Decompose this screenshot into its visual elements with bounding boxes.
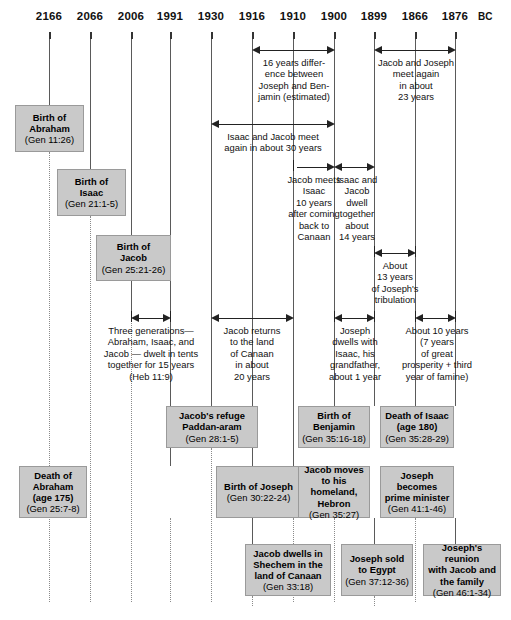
arrow-cap-right: [415, 246, 416, 257]
event-ref: (Gen 41:1-46): [388, 503, 446, 514]
timeline-line-1900-dotted: [334, 518, 335, 602]
event-title: Birth of Benjamin: [313, 410, 355, 432]
event-ref: (Gen 33:18): [263, 581, 313, 592]
event-ref: (Gen 30:22-24): [227, 492, 291, 503]
arrow-joseph-with-isaac: [334, 314, 375, 323]
arrowhead-right: [367, 163, 375, 171]
event-title: Birth of Abraham: [29, 112, 70, 134]
event-box-birth-abraham[interactable]: Birth of Abraham (Gen 11:26): [15, 105, 84, 152]
timeline-line-2066-solid: [90, 39, 91, 169]
arrow-ten-years: [415, 314, 456, 323]
era-label-bc: BC: [478, 11, 492, 22]
arrow-joseph-tribulation: [374, 249, 416, 258]
event-ref: (Gen 37:12-36): [345, 576, 409, 587]
timeline-line-1991-dotted: [170, 518, 171, 602]
arrowhead-right: [327, 46, 335, 54]
year-label-1899: 1899: [361, 10, 387, 22]
event-box-birth-joseph[interactable]: Birth of Joseph (Gen 30:22-24): [216, 466, 301, 518]
arrow-bar: [215, 124, 331, 125]
event-box-joseph-sold[interactable]: Joseph sold to Egypt (Gen 37:12-36): [341, 544, 413, 596]
event-box-birth-jacob[interactable]: Birth of Jacob (Gen 25:21-26): [96, 235, 171, 281]
year-label-1866: 1866: [402, 10, 428, 22]
event-title: Death of Isaac (age 180): [385, 410, 449, 432]
event-box-jacobs-refuge[interactable]: Jacob's refuge Paddan-aram (Gen 28:1-5): [166, 406, 258, 448]
event-ref: (Gen 28:1-5): [185, 433, 238, 444]
note-joseph-tribulation: About 13 years of Joseph's tribulation: [365, 260, 425, 306]
event-title: Jacob moves to his homeland, Hebron: [304, 464, 363, 509]
event-box-josephs-reunion[interactable]: Joseph's reunion with Jacob and the fami…: [423, 544, 501, 596]
timeline-line-1910-mid: [293, 318, 294, 466]
arrow-jacob-meets-isaac: [293, 163, 335, 172]
timeline-line-1899-dotted: [374, 596, 375, 606]
arrow-joseph-benjamin-gap: [252, 46, 335, 55]
tick-1930: [211, 32, 213, 39]
arrow-isaac-jacob-dwell: [334, 163, 375, 172]
tick-1900: [334, 32, 336, 39]
note-joseph-benjamin-gap: 16 years differ- ence between Joseph and…: [248, 57, 340, 103]
timeline-line-1866-dotted: [415, 518, 416, 602]
note-ten-years: About 10 years (7 years of great prosper…: [400, 325, 474, 382]
event-box-joseph-prime-minister[interactable]: Joseph becomes prime minister (Gen 41:1-…: [380, 466, 454, 518]
year-label-2166: 2166: [36, 10, 62, 22]
event-box-jacob-shechem[interactable]: Jacob dwells in Shechem in the land of C…: [245, 544, 331, 596]
timeline-line-2166-dotted: [49, 152, 50, 602]
note-jacob-returns: Jacob returns to the land of Canaan in a…: [216, 325, 288, 382]
arrow-jacob-returns: [211, 314, 294, 323]
note-joseph-with-isaac: Joseph dwells with Isaac, his grandfathe…: [326, 325, 384, 382]
arrowhead-right: [286, 314, 294, 322]
event-box-birth-benjamin[interactable]: Birth of Benjamin (Gen 35:16-18): [298, 406, 370, 448]
timeline-line-2006-solid: [131, 39, 132, 235]
note-jacob-joseph-meet: Jacob and Joseph meet again in about 23 …: [366, 57, 466, 103]
tick-1876: [455, 32, 457, 39]
note-isaac-jacob-dwell: Isaac and Jacob dwell together about 14 …: [330, 174, 384, 242]
arrow-jacob-joseph-meet: [374, 46, 456, 55]
year-label-1930: 1930: [198, 10, 224, 22]
year-label-1910: 1910: [280, 10, 306, 22]
event-box-death-isaac[interactable]: Death of Isaac (age 180) (Gen 35:28-29): [380, 406, 454, 448]
arrow-three-generations: [131, 314, 171, 323]
tick-1910: [293, 32, 295, 39]
tick-2006: [131, 32, 133, 39]
event-title: Joseph becomes prime minister: [385, 470, 450, 504]
event-title: Jacob dwells in Shechem in the land of C…: [253, 548, 322, 582]
arrow-bar: [378, 253, 412, 254]
event-ref: (Gen 25:21-26): [102, 264, 166, 275]
year-label-1991: 1991: [157, 10, 183, 22]
event-title: Birth of Joseph: [224, 481, 293, 492]
timeline-line-1930-solid: [211, 39, 212, 318]
event-title: Joseph's reunion with Jacob and the fami…: [428, 542, 496, 587]
event-title: Death of Abraham (age 175): [33, 470, 74, 504]
year-label-2006: 2006: [118, 10, 144, 22]
note-isaac-jacob-meet: Isaac and Jacob meet again in about 30 y…: [209, 131, 337, 154]
timeline-line-1930-dotted: [211, 448, 212, 602]
arrow-bar: [378, 50, 452, 51]
event-ref: (Gen 35:16-18): [302, 433, 366, 444]
arrow-bar: [256, 50, 331, 51]
tick-1991: [170, 32, 172, 39]
year-label-1916: 1916: [239, 10, 265, 22]
arrow-cap-right: [455, 311, 456, 322]
event-ref: (Gen 46:1-34): [433, 587, 491, 598]
event-title: Jacob's refuge Paddan-aram: [179, 410, 245, 432]
arrowhead-right: [327, 120, 335, 128]
patriarchs-timeline-chart: 2166 2066 2006 1991 1930 1916 1910 1900 …: [0, 0, 511, 620]
event-ref: (Gen 35:28-29): [385, 433, 449, 444]
event-box-death-abraham[interactable]: Death of Abraham (age 175) (Gen 25:7-8): [19, 466, 87, 518]
timeline-line-1916-low: [252, 518, 253, 544]
event-ref: (Gen 35:27): [309, 509, 359, 520]
event-ref: (Gen 21:1-5): [65, 198, 118, 209]
timeline-line-1930-mid: [211, 318, 212, 406]
event-title: Birth of Jacob: [117, 241, 150, 263]
arrow-cap-right: [374, 311, 375, 322]
event-box-jacob-moves[interactable]: Jacob moves to his homeland, Hebron (Gen…: [298, 466, 370, 518]
timeline-line-1899-low: [374, 518, 375, 544]
event-box-birth-isaac[interactable]: Birth of Isaac (Gen 21:1-5): [57, 169, 126, 216]
timeline-line-2066-dotted: [90, 216, 91, 602]
note-three-generations: Three generations— Abraham, Isaac, and J…: [92, 325, 210, 382]
tick-1866: [415, 32, 417, 39]
event-title: Birth of Isaac: [75, 176, 108, 198]
arrow-isaac-jacob-meet: [211, 120, 335, 129]
year-label-2066: 2066: [77, 10, 103, 22]
tick-1899: [374, 32, 376, 39]
arrow-cap-left: [293, 160, 294, 171]
